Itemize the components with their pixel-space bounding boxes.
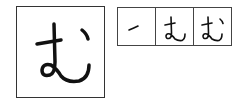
stroke-order-strip bbox=[117, 7, 232, 46]
main-character-box bbox=[16, 6, 105, 98]
hiragana-mu-glyph bbox=[17, 7, 104, 97]
stroke-step-3 bbox=[194, 8, 231, 45]
stroke-2-glyph bbox=[156, 8, 193, 45]
stroke-1-glyph bbox=[118, 8, 155, 45]
stroke-step-1 bbox=[118, 8, 156, 45]
stroke-3-glyph bbox=[194, 8, 231, 45]
stroke-step-2 bbox=[156, 8, 194, 45]
